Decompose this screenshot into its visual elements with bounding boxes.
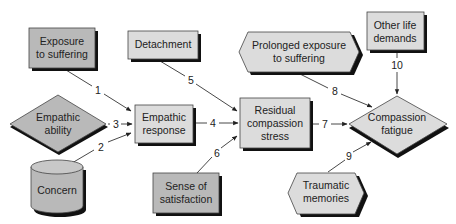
node-compassion-fatigue: Compassion fatigue xyxy=(349,96,449,158)
node-exposure-to-suffering: Exposure to suffering xyxy=(29,28,98,71)
node-label: response xyxy=(142,124,185,136)
edge-5: 5 xyxy=(160,61,237,111)
node-sense-of-satisfaction: Sense of satisfaction xyxy=(153,173,222,216)
node-label: to suffering xyxy=(36,48,88,60)
compassion-fatigue-diagram: 1 2 3 4 5 6 xyxy=(0,0,456,224)
node-label: stress xyxy=(261,130,289,142)
node-label: Other life xyxy=(374,19,417,31)
edge-6: 6 xyxy=(197,136,237,173)
node-label: demands xyxy=(373,32,416,44)
node-label: Detachment xyxy=(135,38,192,50)
edge-4: 4 xyxy=(195,117,238,129)
node-detachment: Detachment xyxy=(128,31,201,62)
node-label: memories xyxy=(303,192,349,204)
node-label: compassion xyxy=(247,117,303,129)
edge-label-7: 7 xyxy=(322,118,328,130)
node-empathic-response: Empathic response xyxy=(135,105,196,146)
edge-label-6: 6 xyxy=(214,147,220,159)
node-label: Compassion xyxy=(368,111,427,123)
edge-label-9: 9 xyxy=(346,150,352,162)
node-traumatic-memories: Traumatic memories xyxy=(288,173,368,217)
edge-9: 9 xyxy=(328,142,371,172)
edge-label-8: 8 xyxy=(332,85,338,97)
node-label: fatigue xyxy=(381,124,413,136)
edge-7: 7 xyxy=(313,118,347,130)
node-label: Empathic xyxy=(36,111,80,123)
node-label: Sense of xyxy=(165,180,207,192)
node-label: Concern xyxy=(37,184,77,196)
edge-label-10: 10 xyxy=(391,59,403,71)
edge-label-1: 1 xyxy=(95,84,101,96)
edge-label-5: 5 xyxy=(188,74,194,86)
node-concern: Concern xyxy=(31,160,86,217)
node-residual-compassion-stress: Residual compassion stress xyxy=(240,98,313,151)
node-label: satisfaction xyxy=(160,193,213,205)
node-empathic-ability: Empathic ability xyxy=(10,95,108,155)
node-label: Residual xyxy=(255,104,296,116)
edge-label-2: 2 xyxy=(98,141,104,153)
node-label: ability xyxy=(45,124,73,136)
node-label: to suffering xyxy=(273,52,325,64)
edge-label-4: 4 xyxy=(210,117,216,129)
node-label: Prolonged exposure xyxy=(252,39,346,51)
edge-label-3: 3 xyxy=(113,118,119,130)
edge-10: 10 xyxy=(391,52,403,94)
node-label: Traumatic xyxy=(303,179,349,191)
edge-1: 1 xyxy=(66,70,131,111)
node-other-life-demands: Other life demands xyxy=(367,12,427,53)
node-label: Empathic xyxy=(142,111,186,123)
edge-3: 3 xyxy=(108,118,132,130)
node-label: Exposure xyxy=(40,35,85,47)
node-prolonged-exposure: Prolonged exposure to suffering xyxy=(239,32,363,75)
